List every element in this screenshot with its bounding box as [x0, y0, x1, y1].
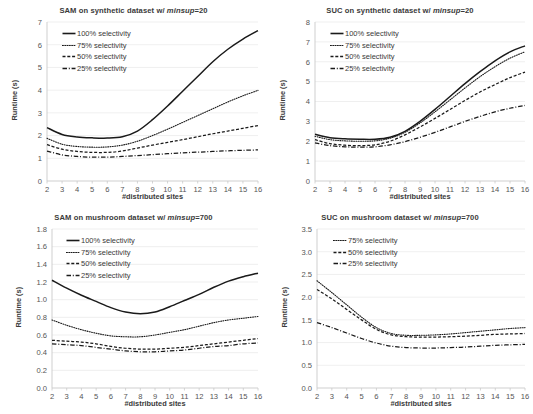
y-tick-label: 1.6	[36, 242, 47, 251]
legend-label: 25% selectivity	[348, 258, 398, 270]
y-tick-label: 6	[306, 58, 310, 67]
y-tick-label: 1.0	[301, 338, 312, 347]
legend-label: 25% selectivity	[77, 63, 127, 75]
legend-label: 100% selectivity	[77, 28, 131, 40]
chart-legend: 100% selectivity75% selectivity50% selec…	[66, 235, 135, 281]
legend-label: 25% selectivity	[345, 63, 395, 75]
y-tick-label: 1.8	[36, 225, 47, 234]
legend-label: 50% selectivity	[81, 258, 131, 270]
y-tick-label: 2	[38, 131, 42, 140]
series-line	[52, 316, 258, 336]
series-line	[52, 343, 258, 352]
legend-line-swatch-dashed	[66, 259, 80, 268]
y-tick-label: 4	[38, 86, 42, 95]
y-tick-label: 0.0	[301, 384, 312, 393]
legend-item: 100% selectivity	[62, 28, 131, 40]
x-axis-label: #distributed sites	[52, 399, 258, 408]
legend-line-swatch-dashed	[62, 52, 76, 61]
y-tick-label: 0.5	[301, 361, 312, 370]
legend-label: 100% selectivity	[81, 235, 135, 247]
y-tick-label: 4	[306, 97, 310, 106]
y-tick-label: 7	[38, 18, 42, 27]
legend-item: 100% selectivity	[330, 28, 399, 40]
legend-item: 50% selectivity	[330, 51, 399, 63]
legend-label: 50% selectivity	[77, 51, 127, 63]
y-tick-label: 3	[38, 109, 42, 118]
plot-area: 012345672345678910111213141516	[0, 0, 267, 207]
legend-item: 75% selectivity	[333, 235, 398, 247]
legend-label: 75% selectivity	[348, 235, 398, 247]
legend-line-swatch-solid	[62, 29, 76, 38]
legend-item: 75% selectivity	[66, 247, 135, 259]
y-tick-label: 0.0	[36, 384, 47, 393]
legend-item: 75% selectivity	[62, 40, 131, 52]
legend-item: 75% selectivity	[330, 40, 399, 52]
y-tick-label: 2.0	[301, 293, 312, 302]
y-tick-label: 6	[38, 41, 42, 50]
legend-label: 75% selectivity	[77, 40, 127, 52]
chart-panel-sam-synthetic: SAM on synthetic dataset w/ minsup=20 Ru…	[0, 0, 267, 207]
y-tick-label: 2	[306, 137, 310, 146]
y-tick-label: 2.5	[301, 270, 312, 279]
series-line	[52, 339, 258, 350]
y-tick-label: 0	[38, 177, 42, 186]
plot-area: 0.00.51.01.52.02.53.03.52345678910111213…	[267, 207, 533, 414]
legend-item: 25% selectivity	[66, 270, 135, 282]
chart-legend: 100% selectivity75% selectivity50% selec…	[62, 28, 131, 74]
legend-line-swatch-dash-dot	[62, 64, 76, 73]
legend-label: 100% selectivity	[345, 28, 399, 40]
x-axis-label: #distributed sites	[315, 192, 525, 201]
chart-legend: 100% selectivity75% selectivity50% selec…	[330, 28, 399, 74]
chart-legend: 75% selectivity50% selectivity25% select…	[333, 235, 398, 270]
y-tick-label: 3.5	[301, 225, 312, 234]
chart-panel-suc-mushroom: SUC on mushroom dataset w/ minsup=700 Ru…	[267, 207, 533, 414]
chart-panel-suc-synthetic: SUC on synthetic dataset w/ minsup=20 Ru…	[267, 0, 533, 207]
figure-grid: SAM on synthetic dataset w/ minsup=20 Ru…	[0, 0, 533, 414]
legend-label: 50% selectivity	[345, 51, 395, 63]
y-tick-label: 0.4	[36, 348, 47, 357]
legend-label: 50% selectivity	[348, 247, 398, 259]
legend-line-swatch-dotted	[333, 236, 347, 245]
legend-item: 25% selectivity	[62, 63, 131, 75]
legend-line-swatch-dotted	[66, 248, 80, 257]
y-tick-label: 1.2	[36, 278, 47, 287]
legend-item: 100% selectivity	[66, 235, 135, 247]
legend-label: 25% selectivity	[81, 270, 131, 282]
y-tick-label: 5	[306, 77, 310, 86]
y-tick-label: 1	[38, 154, 42, 163]
y-tick-label: 1.5	[301, 316, 312, 325]
legend-item: 50% selectivity	[66, 258, 135, 270]
legend-line-swatch-dashed	[330, 52, 344, 61]
y-tick-label: 0.6	[36, 331, 47, 340]
series-line	[47, 150, 258, 157]
legend-line-swatch-dashed	[333, 248, 347, 257]
series-line	[317, 281, 525, 336]
y-tick-label: 3.0	[301, 248, 312, 257]
y-tick-label: 1	[306, 157, 310, 166]
y-tick-label: 5	[38, 63, 42, 72]
legend-line-swatch-dotted	[62, 41, 76, 50]
legend-line-swatch-solid	[330, 29, 344, 38]
y-tick-label: 0.2	[36, 366, 47, 375]
plot-area: 0123456782345678910111213141516	[267, 0, 533, 207]
legend-line-swatch-dash-dot	[330, 64, 344, 73]
y-tick-label: 7	[306, 38, 310, 47]
legend-line-swatch-solid	[66, 236, 80, 245]
legend-item: 25% selectivity	[333, 258, 398, 270]
series-line	[47, 126, 258, 153]
x-axis-label: #distributed sites	[317, 399, 525, 408]
y-tick-label: 0	[306, 177, 310, 186]
legend-line-swatch-dotted	[330, 41, 344, 50]
y-tick-label: 0.8	[36, 313, 47, 322]
legend-item: 50% selectivity	[62, 51, 131, 63]
series-line	[315, 72, 525, 146]
x-axis-label: #distributed sites	[47, 192, 258, 201]
y-tick-label: 1.4	[36, 260, 47, 269]
legend-label: 75% selectivity	[345, 40, 395, 52]
y-tick-label: 8	[306, 18, 310, 27]
legend-item: 50% selectivity	[333, 247, 398, 259]
chart-panel-sam-mushroom: SAM on mushroom dataset w/ minsup=700 Ru…	[0, 207, 267, 414]
legend-line-swatch-dash-dot	[66, 271, 80, 280]
y-tick-label: 3	[306, 117, 310, 126]
legend-label: 75% selectivity	[81, 247, 131, 259]
